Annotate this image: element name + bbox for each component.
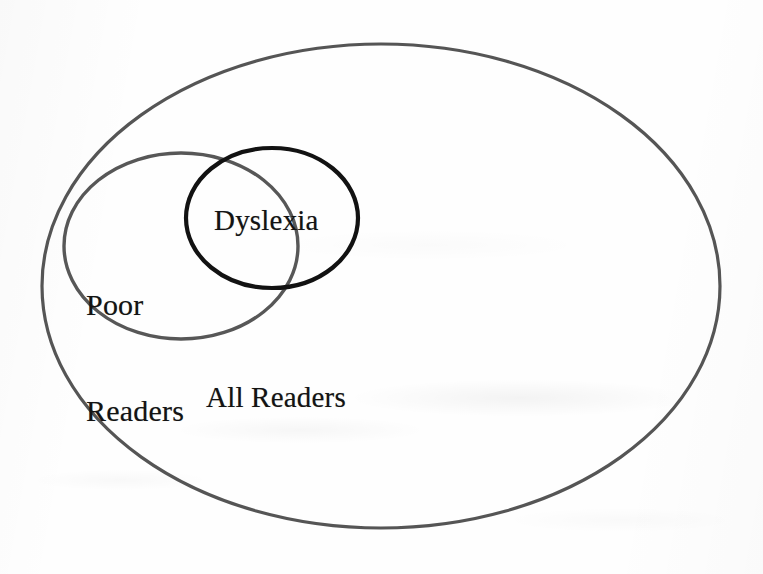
set-label-poor-readers-line1: Poor <box>86 287 184 322</box>
set-label-all-readers: All Readers <box>206 380 346 414</box>
set-label-poor-readers: Poor Readers <box>86 216 184 499</box>
set-label-poor-readers-line2: Readers <box>86 393 184 428</box>
venn-diagram-figure: Poor Readers Dyslexia All Readers <box>0 0 763 574</box>
set-label-dyslexia: Dyslexia <box>214 203 319 237</box>
